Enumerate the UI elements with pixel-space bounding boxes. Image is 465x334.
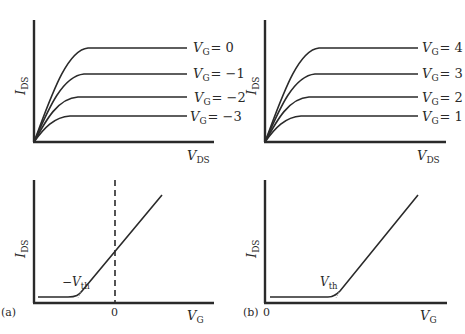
curve-label: VG= 4 [422, 40, 463, 57]
curve-label: VG= 2 [422, 90, 463, 107]
curve-label: VG= 1 [422, 109, 463, 126]
y-axis-label: IDS [13, 239, 30, 259]
curve-label: VG= 3 [422, 66, 463, 83]
y-axis-label: IDS [244, 239, 261, 259]
curve-vg-1 [265, 116, 418, 142]
zero-tick-label: 0 [263, 306, 270, 319]
curve-label: VG= −1 [193, 66, 245, 83]
zero-tick-label: 0 [111, 306, 118, 319]
threshold-label: Vth [320, 275, 338, 291]
transfer-curve [270, 195, 418, 297]
mosfet-characteristics-figure: VG= 0 VG= −1 VG= −2 VG= −3 IDS VDS VG= 4… [0, 0, 465, 334]
plot-output-characteristics-enhancement: VG= 4 VG= 3 VG= 2 VG= 1 IDS VDS [244, 20, 463, 165]
plot-output-characteristics-depletion: VG= 0 VG= −1 VG= −2 VG= −3 IDS VDS [13, 20, 246, 165]
plot-transfer-characteristic-depletion: −Vth IDS 0 VG (a) [1, 180, 214, 325]
x-axis-label: VDS [187, 148, 210, 165]
y-axis-label: IDS [13, 76, 30, 96]
x-axis-label: VG [187, 308, 204, 325]
curve-label: VG= −2 [194, 90, 246, 107]
plot-transfer-characteristic-enhancement: Vth IDS 0 VG (b) [243, 180, 447, 325]
curve-label: VG= −3 [190, 109, 242, 126]
panel-label-a: (a) [1, 306, 16, 319]
x-axis-label: VDS [417, 148, 440, 165]
threshold-label: −Vth [62, 275, 90, 291]
x-axis-label: VG [420, 308, 437, 325]
curve-vg-minus3 [34, 116, 187, 142]
panel-label-b: (b) [243, 306, 259, 319]
y-axis-label: IDS [244, 76, 261, 96]
curve-label: VG= 0 [193, 40, 234, 57]
transfer-curve [38, 195, 162, 297]
